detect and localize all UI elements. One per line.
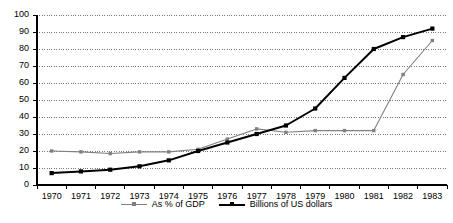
series-2-marker	[284, 123, 288, 127]
series-2-marker	[137, 164, 141, 168]
series-1-marker	[138, 150, 141, 153]
y-tick-label-20: 20	[0, 146, 29, 155]
series-1-marker	[79, 150, 82, 153]
legend-label-as-percent-of-gdp: As % of GDP	[152, 200, 205, 209]
series-1-marker	[284, 131, 287, 134]
series-1-marker	[431, 39, 434, 42]
series-2-marker	[196, 149, 200, 153]
line-chart: 0102030405060708090100 19701971197219731…	[0, 0, 453, 223]
series-2-marker	[79, 169, 83, 173]
series-1-marker	[50, 149, 53, 152]
y-tick-label-90: 90	[0, 27, 29, 36]
y-tick-label-50: 50	[0, 95, 29, 104]
y-tick-label-70: 70	[0, 61, 29, 70]
series-1-marker	[226, 137, 229, 140]
y-tick-label-10: 10	[0, 163, 29, 172]
series-2-marker	[50, 171, 54, 175]
chart-plot-area	[0, 0, 453, 223]
series-1-marker	[167, 150, 170, 153]
series-1-marker	[401, 73, 404, 76]
legend-swatch-black-line-icon	[219, 200, 245, 209]
series-2-marker	[401, 35, 405, 39]
y-tick-label-80: 80	[0, 44, 29, 53]
y-tick-label-30: 30	[0, 129, 29, 138]
series-1-marker	[372, 129, 375, 132]
series-2-marker	[225, 140, 229, 144]
series-1-marker	[255, 127, 258, 130]
y-tick-label-60: 60	[0, 78, 29, 87]
series-2-marker	[255, 132, 259, 136]
legend-swatch-gray-line-icon	[121, 200, 147, 209]
series-2-marker	[372, 47, 376, 51]
series-1-marker	[109, 152, 112, 155]
y-tick-label-100: 100	[0, 10, 29, 19]
chart-legend: As % of GDP Billions of US dollars	[0, 200, 453, 209]
legend-entry-as-percent-of-gdp: As % of GDP	[121, 200, 205, 209]
series-2-marker	[313, 106, 317, 110]
series-1-marker	[343, 129, 346, 132]
series-2-marker	[342, 76, 346, 80]
series-2-marker	[108, 168, 112, 172]
legend-entry-billions-of-us-dollars: Billions of US dollars	[219, 200, 333, 209]
y-tick-label-40: 40	[0, 112, 29, 121]
series-2-marker	[167, 158, 171, 162]
series-1-marker	[314, 129, 317, 132]
y-tick-label-0: 0	[0, 180, 29, 189]
legend-label-billions-of-us-dollars: Billions of US dollars	[250, 200, 333, 209]
series-2-marker	[430, 27, 434, 31]
